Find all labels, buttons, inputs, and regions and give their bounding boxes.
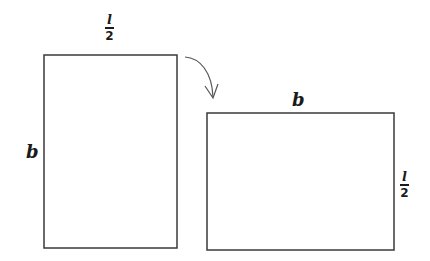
fraction-denominator: 2 — [400, 187, 408, 199]
curved-arrow-icon — [185, 57, 218, 98]
fraction-numerator: l — [402, 170, 407, 183]
right-rect-top-label: b — [292, 89, 305, 110]
diagram-canvas — [0, 0, 430, 261]
right-rectangle — [207, 113, 394, 250]
right-rect-side-label: l 2 — [400, 170, 409, 199]
fraction-numerator: l — [107, 13, 112, 26]
left-rect-side-label: b — [26, 141, 39, 162]
left-rectangle — [44, 55, 177, 248]
left-rect-top-label: l 2 — [105, 13, 114, 42]
fraction-denominator: 2 — [105, 30, 113, 42]
